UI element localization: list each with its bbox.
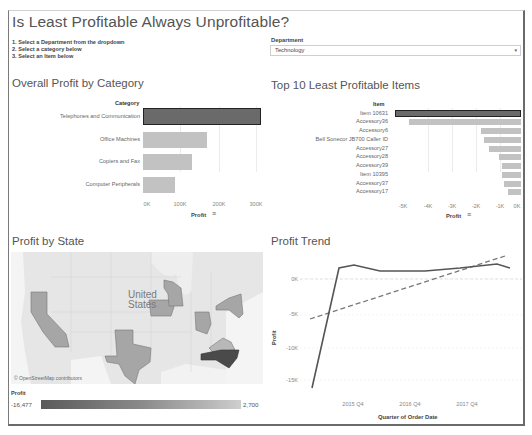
x-tick: 2015 Q4 xyxy=(342,401,363,407)
map-country-label: United States xyxy=(128,290,157,310)
x-tick: 0K xyxy=(514,203,521,209)
x-tick: 2017 Q4 xyxy=(456,401,477,407)
gridline xyxy=(428,108,429,172)
legend-title: Profit xyxy=(11,390,26,396)
item-bar-accessory17[interactable] xyxy=(508,189,521,195)
dashboard-title: Is Least Profitable Always Unprofitable? xyxy=(12,13,289,31)
category-bar-copiers-fax[interactable] xyxy=(143,154,192,170)
item-axis-header: Item xyxy=(373,101,385,107)
item-label[interactable]: Item 10631 xyxy=(360,110,388,116)
trend-line xyxy=(310,256,505,319)
sort-descending-icon[interactable]: ≡ xyxy=(212,210,216,217)
items-chart-title: Top 10 Least Profitable Items xyxy=(271,79,420,91)
x-tick: -1K xyxy=(496,203,505,209)
chevron-down-icon[interactable]: ▾ xyxy=(514,47,517,53)
item-bar-bell-sonecor[interactable] xyxy=(484,137,521,143)
item-bar-accessory6[interactable] xyxy=(481,128,521,134)
y-tick: -5K xyxy=(278,311,298,317)
y-tick: -15K xyxy=(278,377,298,383)
y-tick: 0K xyxy=(278,276,298,282)
x-tick: -3K xyxy=(448,203,457,209)
item-label[interactable]: Item 10395 xyxy=(360,171,388,177)
item-bar-item-10395[interactable] xyxy=(502,172,521,178)
state-ohio xyxy=(195,312,211,334)
category-label[interactable]: Computer Peripherals xyxy=(86,181,140,187)
category-x-axis-label: Profit xyxy=(191,212,206,218)
y-tick: -10K xyxy=(278,345,298,351)
map-title: Profit by State xyxy=(12,235,84,247)
x-tick: -4K xyxy=(424,203,433,209)
item-bar-accessory39[interactable] xyxy=(502,163,521,169)
x-tick: -2K xyxy=(472,203,481,209)
x-tick: -5K xyxy=(399,203,408,209)
profit-line xyxy=(312,264,510,388)
instruction-3: 3. Select an Item below xyxy=(12,53,73,59)
department-filter-label: Department xyxy=(271,37,303,43)
instruction-2: 2. Select a category below xyxy=(12,46,82,52)
category-bar-telephones[interactable] xyxy=(143,108,261,125)
item-label[interactable]: Accessory39 xyxy=(356,162,388,168)
x-tick: 2016 Q4 xyxy=(399,401,420,407)
item-label[interactable]: Accessory36 xyxy=(356,118,388,124)
category-axis-header: Category xyxy=(115,100,139,106)
legend-gradient xyxy=(41,400,241,409)
category-label[interactable]: Office Machines xyxy=(100,136,140,142)
legend-max: 2,700 xyxy=(243,401,258,408)
trend-x-axis-label: Quarter of Order Date xyxy=(378,414,438,420)
item-label[interactable]: Accessory6 xyxy=(359,127,388,133)
category-label[interactable]: Copiers and Fax xyxy=(99,158,140,164)
item-bar-accessory37[interactable] xyxy=(504,181,521,187)
instruction-1: 1. Select a Department from the dropdown xyxy=(12,39,125,45)
category-label[interactable]: Telephones and Communication xyxy=(60,113,140,119)
item-label[interactable]: Accessory27 xyxy=(356,145,388,151)
department-dropdown-value: Technology xyxy=(275,47,304,53)
department-dropdown[interactable]: Technology ▾ xyxy=(270,45,521,56)
us-map[interactable]: United States © OpenStreetMap contributo… xyxy=(11,252,263,384)
item-bar-accessory36[interactable] xyxy=(409,119,521,125)
x-tick: 200K xyxy=(212,201,225,207)
item-bar-accessory28[interactable] xyxy=(499,154,521,160)
us-map-svg xyxy=(11,252,263,384)
map-attribution[interactable]: © OpenStreetMap contributors xyxy=(14,375,82,381)
category-chart-title: Overall Profit by Category xyxy=(12,77,144,89)
items-x-axis-label: Profit xyxy=(446,213,461,219)
legend-min: -16,477 xyxy=(11,401,32,408)
x-tick: 300K xyxy=(249,201,262,207)
trend-line-chart[interactable] xyxy=(300,252,522,394)
item-label[interactable]: Bell Sonecor JB700 Caller ID xyxy=(316,136,388,142)
item-label[interactable]: Accessory37 xyxy=(356,180,388,186)
item-bar-accessory27[interactable] xyxy=(489,146,521,152)
item-label[interactable]: Accessory28 xyxy=(356,153,388,159)
gridline xyxy=(476,108,477,172)
x-tick: 0K xyxy=(144,201,151,207)
item-bar-item-10631[interactable] xyxy=(395,110,521,117)
gridline xyxy=(452,108,453,172)
sort-ascending-icon[interactable]: ≡ xyxy=(467,211,471,218)
trend-y-axis-label: Profit xyxy=(271,330,277,345)
x-tick: 100K xyxy=(173,201,186,207)
trend-title: Profit Trend xyxy=(271,235,330,247)
category-bar-office-machines[interactable] xyxy=(143,132,207,148)
category-bar-computer-peripherals[interactable] xyxy=(143,177,175,193)
item-label[interactable]: Accessory17 xyxy=(356,188,388,194)
